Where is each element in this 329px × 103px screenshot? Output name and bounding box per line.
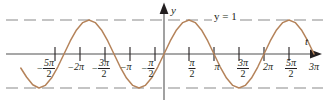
minus-sign: − [141,64,147,74]
fraction-denominator: 2 [98,69,110,79]
tick-label-neg-2pi: −2π [68,62,84,73]
tick-value: 2π [74,61,84,72]
tick-value: 2π [263,61,273,72]
tick-label-pos-3pi: 3π [309,62,319,72]
tick-label-neg-pi-2: −π2 [141,58,154,79]
tick-label-pos-pi: π [214,62,219,72]
minus-sign: − [92,64,98,74]
y-axis-arrowhead [160,3,169,15]
tick-label-neg-pi: −π [120,62,131,73]
tick-label-pos-5pi-2: 5π2 [285,58,297,79]
tick-label-neg-3pi-2: −3π2 [92,58,110,79]
fraction: 3π2 [98,58,110,79]
minus-sign: − [37,64,43,74]
y-axis-label: y [171,5,176,16]
fraction: π2 [148,58,155,79]
sine-function-graph: y t y = 1 −5π2−2π−3π2−π−π2π2π3π22π5π23π [0,0,329,103]
tick-label-pos-2pi: 2π [263,62,273,72]
fraction: 3π2 [237,58,249,79]
fraction-denominator: 2 [237,69,249,79]
fraction-denominator: 2 [43,69,55,79]
tick-value: 3π [309,61,319,72]
fraction: π2 [188,58,195,79]
fraction-denominator: 2 [285,69,297,79]
level-line-label: y = 1 [212,11,239,22]
tick-value: π [214,61,219,72]
tick-label-neg-5pi-2: −5π2 [37,58,55,79]
fraction: 5π2 [285,58,297,79]
tick-label-pos-pi-2: π2 [188,58,195,79]
tick-value: π [127,61,132,72]
t-axis-label: t [305,36,308,47]
tick-label-pos-3pi-2: 3π2 [237,58,249,79]
fraction-denominator: 2 [188,69,195,79]
fraction: 5π2 [43,58,55,79]
minus-sign: − [120,63,126,73]
minus-sign: − [68,63,74,73]
fraction-denominator: 2 [148,69,155,79]
plot-canvas [0,0,329,103]
